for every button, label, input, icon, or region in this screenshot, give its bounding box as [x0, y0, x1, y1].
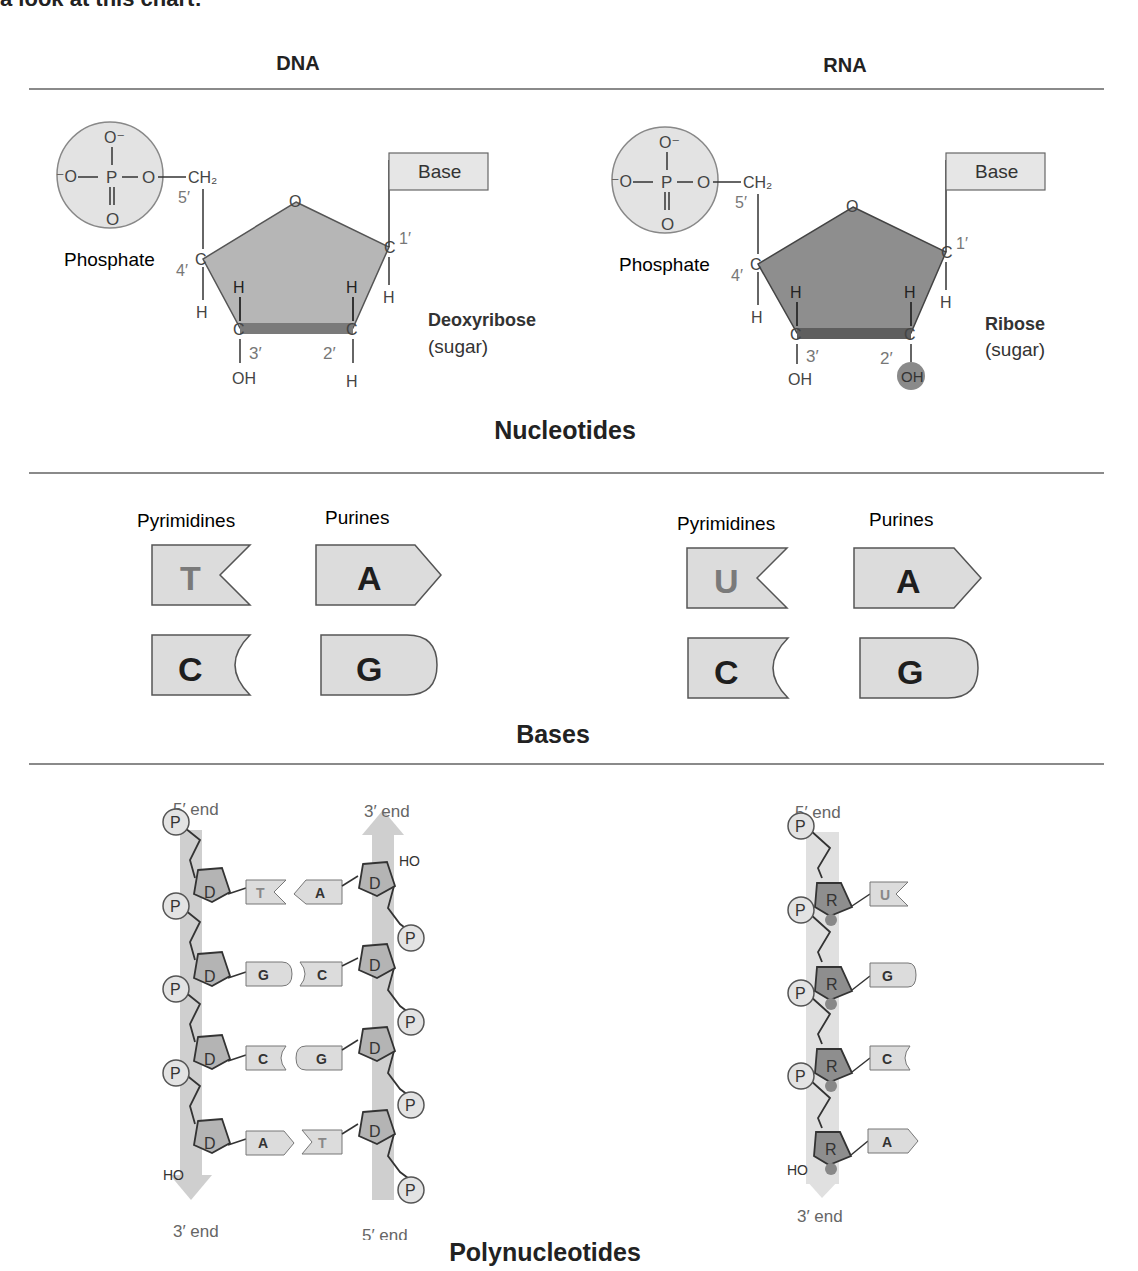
svg-text:2′: 2′ — [323, 344, 336, 363]
svg-text:T: T — [180, 559, 201, 597]
svg-text:H: H — [233, 279, 245, 296]
svg-text:C: C — [346, 321, 358, 338]
svg-text:C: C — [882, 1051, 892, 1067]
svg-text:CH₂: CH₂ — [188, 169, 217, 186]
svg-text:O⁻: O⁻ — [659, 134, 680, 151]
svg-text:3′: 3′ — [249, 344, 262, 363]
svg-text:R: R — [826, 892, 838, 909]
svg-text:H: H — [346, 279, 358, 296]
rna-bases — [851, 882, 918, 1155]
svg-text:H: H — [790, 284, 802, 301]
svg-text:H: H — [383, 289, 395, 306]
svg-text:HO: HO — [163, 1167, 184, 1183]
bases-title: Bases — [353, 720, 753, 749]
svg-text:C: C — [317, 967, 327, 983]
svg-text:4′: 4′ — [731, 267, 743, 284]
svg-text:P: P — [795, 818, 806, 835]
svg-text:P: P — [170, 1065, 181, 1082]
svg-text:D: D — [369, 875, 381, 892]
svg-text:C: C — [233, 321, 245, 338]
svg-text:P: P — [170, 898, 181, 915]
svg-text:3′: 3′ — [806, 347, 819, 366]
svg-text:(sugar): (sugar) — [985, 339, 1045, 360]
svg-text:G: G — [897, 653, 923, 691]
svg-text:P: P — [405, 1097, 416, 1114]
svg-text:O: O — [661, 215, 674, 234]
svg-text:R: R — [826, 1058, 838, 1075]
svg-text:P: P — [405, 1182, 416, 1199]
svg-text:U: U — [880, 887, 890, 903]
dna-column-title: DNA — [198, 52, 398, 75]
svg-text:1′: 1′ — [399, 230, 411, 247]
svg-text:A: A — [315, 885, 325, 901]
svg-text:T: T — [318, 1135, 327, 1151]
svg-text:H: H — [904, 284, 916, 301]
svg-text:D: D — [369, 1040, 381, 1057]
svg-text:P: P — [661, 173, 672, 192]
dna-right-phosphates: P P P P — [398, 925, 424, 1203]
svg-text:P: P — [795, 902, 806, 919]
svg-text:Purines: Purines — [869, 509, 933, 530]
ribose-label: Ribose — [985, 314, 1045, 334]
svg-text:H: H — [346, 373, 358, 390]
nucleotides-diagram: O⁻ ⁻O P O O CH₂ 5′ Phosphate O C 4′ H C … — [0, 95, 1138, 415]
svg-text:Pyrimidines: Pyrimidines — [677, 513, 775, 534]
svg-text:A: A — [357, 559, 382, 597]
svg-text:G: G — [258, 967, 269, 983]
bases-diagram: Pyrimidines Purines T A C G Pyrimidines … — [0, 495, 1138, 710]
svg-text:A: A — [896, 562, 921, 600]
svg-text:C: C — [790, 326, 802, 343]
dna-nucleotide: O⁻ ⁻O P O O CH₂ 5′ Phosphate O C 4′ H C … — [56, 122, 536, 390]
svg-text:OH: OH — [232, 370, 256, 387]
svg-text:D: D — [204, 1135, 216, 1152]
svg-text:P: P — [405, 1014, 416, 1031]
svg-text:4′: 4′ — [176, 262, 188, 279]
svg-text:HO: HO — [399, 853, 420, 869]
base-shape-t — [152, 545, 250, 605]
deoxyribose-label: Deoxyribose — [428, 310, 536, 330]
svg-text:Purines: Purines — [325, 507, 389, 528]
svg-text:A: A — [258, 1135, 268, 1151]
bases-divider — [29, 763, 1104, 765]
svg-text:O⁻: O⁻ — [104, 129, 125, 146]
svg-text:C: C — [258, 1051, 268, 1067]
svg-text:U: U — [714, 562, 739, 600]
rna-nucleotide: O⁻ ⁻O P O O CH₂ 5′ Phosphate O C 4′ H C … — [611, 127, 1045, 390]
ribose-ring — [758, 207, 946, 333]
svg-text:H: H — [196, 304, 208, 321]
nucleotides-title: Nucleotides — [365, 416, 765, 445]
polynucleotides-title: Polynucleotides — [345, 1238, 745, 1267]
svg-text:(sugar): (sugar) — [428, 336, 488, 357]
svg-text:Base: Base — [418, 161, 461, 182]
svg-text:OH: OH — [901, 368, 924, 385]
dna-right-bases — [294, 876, 358, 1154]
svg-text:C: C — [178, 650, 203, 688]
top-divider — [29, 88, 1104, 90]
svg-text:R: R — [826, 976, 838, 993]
svg-text:Base: Base — [975, 161, 1018, 182]
svg-text:P: P — [795, 985, 806, 1002]
svg-text:A: A — [882, 1134, 892, 1150]
svg-text:C: C — [384, 239, 396, 256]
svg-text:⁻O: ⁻O — [56, 168, 77, 185]
svg-text:O: O — [697, 173, 710, 192]
svg-text:O: O — [106, 210, 119, 229]
svg-text:C: C — [904, 326, 916, 343]
svg-text:C: C — [195, 251, 207, 268]
svg-text:T: T — [256, 885, 265, 901]
svg-text:D: D — [204, 884, 216, 901]
svg-text:H: H — [940, 294, 952, 311]
nucleotides-divider — [29, 472, 1104, 474]
svg-text:G: G — [316, 1051, 327, 1067]
svg-text:P: P — [405, 930, 416, 947]
svg-text:G: G — [356, 650, 382, 688]
svg-text:D: D — [204, 1051, 216, 1068]
svg-text:5′: 5′ — [178, 189, 190, 206]
svg-text:O: O — [289, 193, 301, 210]
svg-text:O: O — [142, 168, 155, 187]
svg-text:5′: 5′ — [735, 194, 747, 211]
svg-text:D: D — [369, 957, 381, 974]
svg-text:3′ end: 3′ end — [797, 1207, 843, 1226]
svg-text:3′ end: 3′ end — [173, 1222, 219, 1240]
polynucleotides-diagram: 5′ end 3′ end 3′ end 5′ end P P P P D D … — [0, 790, 1138, 1240]
